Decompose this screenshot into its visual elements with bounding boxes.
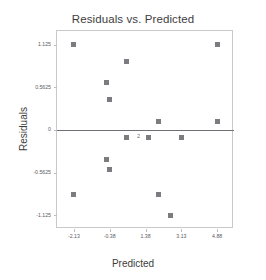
residuals-vs-predicted-chart: Residuals vs. Predicted Residuals1.1250.… bbox=[0, 0, 266, 280]
data-point bbox=[215, 42, 220, 47]
y-tick-label: -1.125 bbox=[25, 213, 51, 218]
x-tick-mark bbox=[181, 229, 182, 232]
x-tick-label: -0.38 bbox=[104, 234, 116, 239]
x-tick-mark bbox=[146, 229, 147, 232]
chart-title: Residuals vs. Predicted bbox=[0, 13, 266, 25]
y-tick-mark bbox=[54, 45, 57, 46]
x-tick-label: 1.38 bbox=[141, 234, 151, 239]
data-point bbox=[104, 80, 109, 85]
data-point bbox=[156, 192, 161, 197]
y-tick-mark bbox=[54, 215, 57, 216]
x-axis-title: Predicted bbox=[0, 258, 266, 269]
zero-reference-line bbox=[57, 130, 234, 131]
x-tick-mark bbox=[217, 229, 218, 232]
y-tick-label: 0.5625 bbox=[25, 85, 51, 90]
x-tick-label: 3.13 bbox=[176, 234, 186, 239]
x-tick-mark bbox=[74, 229, 75, 232]
data-point bbox=[107, 97, 112, 102]
x-tick-mark bbox=[110, 229, 111, 232]
data-point bbox=[71, 42, 76, 47]
data-point bbox=[104, 157, 109, 162]
data-point bbox=[146, 135, 151, 140]
data-point bbox=[179, 135, 184, 140]
data-point bbox=[215, 119, 220, 124]
data-point bbox=[124, 59, 129, 64]
data-point bbox=[156, 119, 161, 124]
x-tick-label: -2.13 bbox=[68, 234, 80, 239]
x-tick-label: 4.88 bbox=[212, 234, 222, 239]
data-point bbox=[124, 135, 129, 140]
y-tick-mark bbox=[54, 173, 57, 174]
data-point bbox=[71, 192, 76, 197]
y-tick-label: 0 bbox=[25, 127, 51, 132]
plot-area: Residuals1.1250.56250-0.5625-1.125-2.13-… bbox=[56, 30, 233, 228]
data-point-count-label: 2 bbox=[137, 134, 140, 140]
y-tick-label: -0.5625 bbox=[25, 170, 51, 175]
y-tick-mark bbox=[54, 87, 57, 88]
data-point bbox=[107, 167, 112, 172]
data-point bbox=[168, 213, 173, 218]
y-tick-label: 1.125 bbox=[25, 42, 51, 47]
